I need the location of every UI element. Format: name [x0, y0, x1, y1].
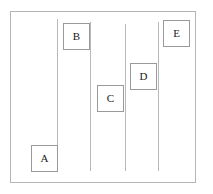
node-label-d: D: [140, 71, 148, 82]
node-label-c: C: [107, 93, 114, 104]
node-label-e: E: [173, 28, 180, 39]
node-label-a: A: [41, 153, 49, 164]
lane-line-2: [90, 22, 91, 171]
node-box-b[interactable]: B: [63, 23, 90, 50]
lane-line-4: [158, 22, 159, 171]
lane-line-3: [125, 24, 126, 171]
diagram-canvas: A B C D E: [0, 0, 213, 194]
node-box-c[interactable]: C: [97, 85, 124, 112]
node-box-e[interactable]: E: [163, 20, 190, 47]
node-label-b: B: [73, 31, 80, 42]
node-box-d[interactable]: D: [130, 63, 157, 90]
node-box-a[interactable]: A: [31, 145, 58, 172]
